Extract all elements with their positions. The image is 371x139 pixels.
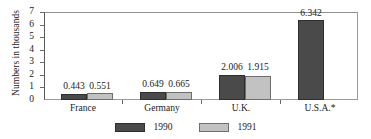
bar-uk-1991[interactable]: [245, 76, 271, 100]
y-axis-ticks: 7 6 5 4 3 2 1 0: [0, 12, 44, 100]
bar-chart: Numbers in thousands 7 6 5 4 3 2 1: [0, 0, 371, 139]
y-tick-label-1: 1: [12, 80, 34, 93]
y-tick-label-4: 4: [12, 43, 34, 56]
y-tick-label-5: 5: [12, 30, 34, 43]
legend-swatch-1991-icon: [199, 123, 229, 132]
bar-label-uk-1991: 1.915: [235, 62, 281, 73]
y-tick-label-0: 0: [12, 93, 34, 106]
legend-label-1991: 1991: [238, 122, 257, 133]
bar-germany-1991[interactable]: [166, 92, 192, 100]
bar-germany-1990[interactable]: [140, 92, 166, 100]
bar-uk-1990[interactable]: [219, 75, 245, 100]
bar-label-france-1991: 0.551: [77, 81, 123, 92]
bar-usa-1990[interactable]: [298, 20, 324, 100]
y-tick-label-3: 3: [12, 55, 34, 68]
x-tick-label-germany: Germany: [123, 101, 201, 115]
bars-layer: 0.443 0.551 0.649 0.665 2.006 1.915 6.34…: [44, 12, 358, 100]
bar-france-1991[interactable]: [87, 93, 113, 100]
x-tick-label-uk: U.K.: [202, 101, 280, 115]
x-axis-labels: France Germany U.K. U.S.A.*: [44, 101, 358, 117]
bar-label-germany-1991: 0.665: [156, 79, 202, 90]
legend-item-1991[interactable]: 1991: [199, 122, 257, 133]
x-tick-label-france: France: [44, 101, 122, 115]
x-tick-label-usa: U.S.A.*: [281, 101, 359, 115]
chart-legend: 1990 1991: [0, 119, 371, 135]
legend-swatch-1990-icon: [115, 123, 145, 132]
y-tick-label-7: 7: [12, 5, 34, 18]
y-tick-label-6: 6: [12, 18, 34, 31]
legend-label-1990: 1990: [154, 122, 173, 133]
legend-item-1990[interactable]: 1990: [115, 122, 173, 133]
y-tick-label-2: 2: [12, 68, 34, 81]
bar-label-usa-1990: 6.342: [288, 8, 334, 19]
